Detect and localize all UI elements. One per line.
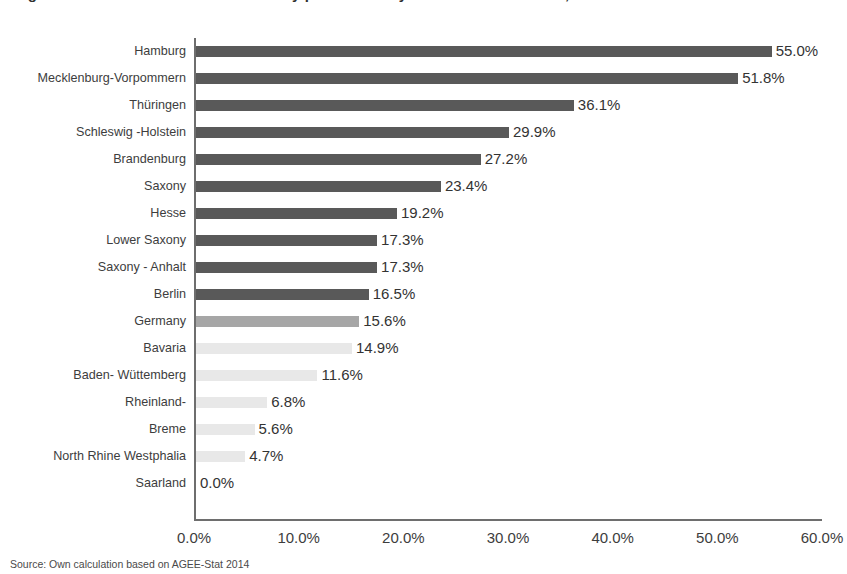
bar-row: Hesse19.2% [0, 200, 847, 227]
category-label: Hamburg [0, 38, 186, 65]
x-tick-label: 60.0% [777, 529, 847, 546]
bar-row: Rheinland-6.8% [0, 389, 847, 416]
bar-value-label: 5.6% [255, 416, 293, 443]
bar [196, 316, 359, 327]
bar [196, 370, 317, 381]
bar-row: Saxony23.4% [0, 173, 847, 200]
bar-value-label: 36.1% [574, 92, 621, 119]
bar-row: Berlin16.5% [0, 281, 847, 308]
bar [196, 262, 377, 273]
bar-row: Brandenburg27.2% [0, 146, 847, 173]
bar-row: Lower Saxony17.3% [0, 227, 847, 254]
x-axis-line [194, 519, 822, 521]
bar-row: Baden- Wüttemberg11.6% [0, 362, 847, 389]
x-tick-label: 0.0% [149, 529, 239, 546]
x-axis-ticks: 0.0%10.0%20.0%30.0%40.0%50.0%60.0% [0, 529, 847, 553]
x-tick-label: 40.0% [568, 529, 658, 546]
bar-value-label: 4.7% [245, 443, 283, 470]
category-label: Saxony [0, 173, 186, 200]
x-tick-label: 10.0% [254, 529, 344, 546]
bar-value-label: 6.8% [267, 389, 305, 416]
bar-row: Thüringen36.1% [0, 92, 847, 119]
x-tick-label: 30.0% [463, 529, 553, 546]
category-label: Saxony - Anhalt [0, 254, 186, 281]
bar-chart: Hamburg55.0%Mecklenburg-Vorpommern51.8%T… [0, 14, 847, 560]
bar-value-label: 17.3% [377, 254, 424, 281]
bar-row: Saarland0.0% [0, 470, 847, 497]
bar [196, 289, 369, 300]
category-label: Bavaria [0, 335, 186, 362]
category-label: Brandenburg [0, 146, 186, 173]
bar-row: Saxony - Anhalt17.3% [0, 254, 847, 281]
source-note: Source: Own calculation based on AGEE-St… [10, 560, 249, 570]
bar [196, 46, 772, 57]
category-label: Mecklenburg-Vorpommern [0, 65, 186, 92]
source-note-strip: Source: Own calculation based on AGEE-St… [0, 560, 847, 574]
bar [196, 100, 574, 111]
bar-value-label: 27.2% [481, 146, 528, 173]
bar [196, 235, 377, 246]
bar [196, 73, 738, 84]
x-tick-label: 20.0% [358, 529, 448, 546]
bar-value-label: 17.3% [377, 227, 424, 254]
bar [196, 181, 441, 192]
bar-value-label: 0.0% [196, 470, 234, 497]
category-label: Saarland [0, 470, 186, 497]
category-label: Baden- Wüttemberg [0, 362, 186, 389]
bar [196, 397, 267, 408]
bar-value-label: 51.8% [738, 65, 785, 92]
bar-value-label: 29.9% [509, 119, 556, 146]
category-label: Thüringen [0, 92, 186, 119]
bar-row: Mecklenburg-Vorpommern51.8% [0, 65, 847, 92]
bar-value-label: 19.2% [397, 200, 444, 227]
bar-row: North Rhine Westphalia4.7% [0, 443, 847, 470]
bar-value-label: 14.9% [352, 335, 399, 362]
category-label: Rheinland- [0, 389, 186, 416]
page-title: Figure 1. Share of renewable electricity… [14, 0, 608, 2]
bar-row: Germany15.6% [0, 308, 847, 335]
bar-row: Bavaria14.9% [0, 335, 847, 362]
category-label: Germany [0, 308, 186, 335]
category-label: Schleswig -Holstein [0, 119, 186, 146]
bar-value-label: 23.4% [441, 173, 488, 200]
bar [196, 451, 245, 462]
bar-value-label: 16.5% [369, 281, 416, 308]
bar [196, 127, 509, 138]
bar-row: Schleswig -Holstein29.9% [0, 119, 847, 146]
bar-value-label: 11.6% [317, 362, 362, 389]
bar-value-label: 55.0% [772, 38, 819, 65]
bar [196, 343, 352, 354]
category-label: Hesse [0, 200, 186, 227]
bar [196, 154, 481, 165]
bar [196, 424, 255, 435]
bar-row: Breme5.6% [0, 416, 847, 443]
category-label: Berlin [0, 281, 186, 308]
category-label: Lower Saxony [0, 227, 186, 254]
category-label: Breme [0, 416, 186, 443]
bar-row: Hamburg55.0% [0, 38, 847, 65]
bar [196, 208, 397, 219]
category-label: North Rhine Westphalia [0, 443, 186, 470]
bar-value-label: 15.6% [359, 308, 406, 335]
chart-title-strip: Figure 1. Share of renewable electricity… [0, 0, 847, 14]
x-tick-label: 50.0% [672, 529, 762, 546]
